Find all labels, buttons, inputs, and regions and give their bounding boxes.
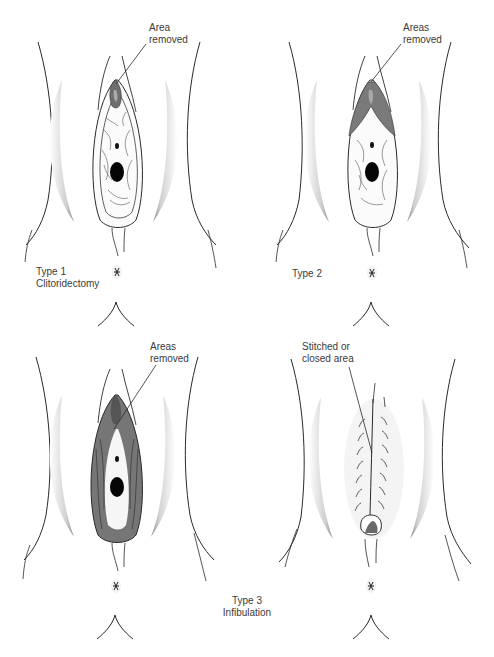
panel-type1: Area removed Type 1 Clitoridectomy (0, 0, 247, 328)
panel-type2: Areas removed Type 2 (247, 0, 494, 328)
type-name: Infibulation (207, 607, 287, 619)
type-label: Type 1 Clitoridectomy (36, 266, 99, 290)
type-number: Type 2 (292, 268, 322, 280)
vulva-illustration-type2 (247, 0, 494, 328)
callout-stitched-area: Stitched or closed area (302, 341, 354, 365)
type3-label: Type 3 Infibulation (207, 595, 287, 619)
callout-area-removed: Area removed (149, 22, 188, 46)
type-name: Clitoridectomy (36, 278, 99, 290)
type-number: Type 3 (207, 595, 287, 607)
callout-areas-removed: Areas removed (403, 22, 442, 46)
callout-line (116, 44, 146, 84)
callout-areas-removed: Areas removed (150, 341, 189, 365)
type-number: Type 1 (36, 266, 99, 278)
type-label: Type 2 (292, 268, 322, 280)
callout-line (371, 44, 401, 82)
